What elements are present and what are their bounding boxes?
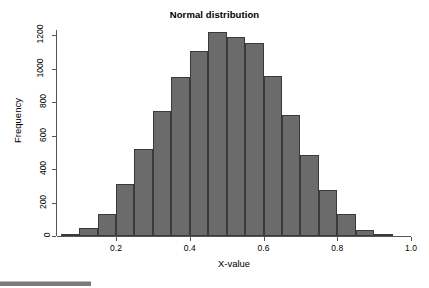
- histogram-bar: [134, 149, 152, 236]
- histogram-bar: [337, 214, 355, 236]
- histogram-bar: [116, 184, 134, 236]
- y-axis-tick-mark: [52, 69, 56, 70]
- x-axis-tick-label: 0.8: [331, 243, 343, 253]
- y-axis-tick-label: 0: [0, 230, 50, 240]
- x-axis-tick-mark: [337, 237, 338, 241]
- histogram-bar: [98, 214, 116, 236]
- y-axis-tick-label: 200: [0, 197, 50, 207]
- y-axis-tick-mark: [52, 203, 56, 204]
- page-title: Normal distribution: [0, 9, 429, 20]
- x-axis-tick-label: 0.6: [258, 243, 270, 253]
- y-axis-title: Frequency: [12, 81, 23, 161]
- y-axis-tick-label-text: 800: [38, 94, 48, 108]
- y-axis-tick-label-text: 1200: [36, 25, 46, 44]
- histogram-bar: [208, 32, 226, 236]
- y-axis-tick-label: 600: [0, 130, 50, 140]
- y-axis-tick-mark: [52, 169, 56, 170]
- histogram-bar: [264, 76, 282, 236]
- histogram-bar: [227, 37, 245, 236]
- y-axis-tick-label-text: 0: [43, 233, 53, 238]
- x-axis-tick-label: 0.2: [110, 243, 122, 253]
- x-axis-tick-mark: [264, 237, 265, 241]
- histogram-figure: Normal distribution Frequency X-value 0.…: [0, 0, 429, 288]
- y-axis-tick-label-text: 1000: [36, 58, 46, 77]
- x-axis-tick-label: 1.0: [405, 243, 417, 253]
- histogram-bar: [79, 228, 97, 236]
- x-axis-tick-mark: [116, 237, 117, 241]
- histogram-bar: [61, 234, 79, 236]
- y-axis-tick-label: 800: [0, 96, 50, 106]
- y-axis-tick-mark: [52, 136, 56, 137]
- x-axis-tick-mark: [190, 237, 191, 241]
- histogram-bar: [282, 115, 300, 236]
- x-axis-tick-mark: [411, 237, 412, 241]
- y-axis-tick-label-text: 600: [38, 127, 48, 141]
- x-axis-title: X-value: [57, 258, 411, 269]
- plot-panel: [57, 30, 411, 236]
- x-axis-tick-label: 0.4: [184, 243, 196, 253]
- histogram-bar: [319, 190, 337, 236]
- histogram-bar: [190, 51, 208, 236]
- histogram-bar: [171, 77, 189, 236]
- y-axis-tick-mark: [52, 236, 56, 237]
- histogram-bar: [245, 43, 263, 236]
- histogram-bar: [153, 111, 171, 236]
- y-axis-tick-mark: [52, 35, 56, 36]
- y-axis-tick-label: 1200: [0, 29, 50, 39]
- bottom-edge-artifact: [0, 281, 91, 286]
- histogram-bar: [374, 234, 392, 236]
- y-axis-tick-label: 1000: [0, 63, 50, 73]
- y-axis-tick-label-text: 200: [38, 194, 48, 208]
- histogram-bar: [356, 230, 374, 236]
- y-axis-tick-label-text: 400: [38, 161, 48, 175]
- y-axis-tick-label: 400: [0, 163, 50, 173]
- x-axis-line: [57, 236, 411, 237]
- histogram-bar: [300, 155, 318, 236]
- y-axis-tick-mark: [52, 102, 56, 103]
